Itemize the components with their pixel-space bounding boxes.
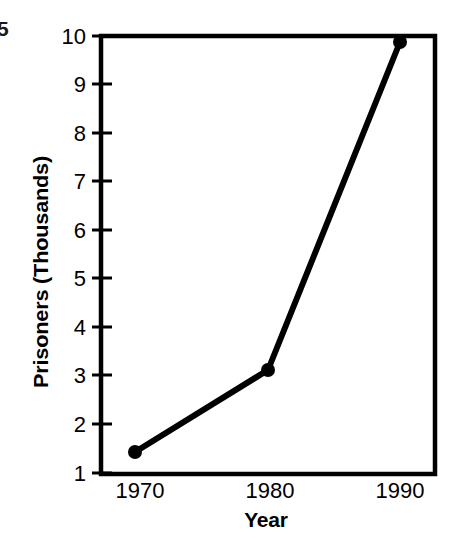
y-tick-label-7: 7 [74, 169, 86, 194]
y-tick-label-6: 6 [74, 218, 86, 243]
figure-container: 5 10 9 8 7 6 5 4 3 2 [0, 0, 457, 555]
y-axis-title: Prisoners (Thousands) [29, 156, 52, 388]
y-tick-label-4: 4 [74, 315, 86, 340]
x-axis-title: Year [244, 508, 288, 531]
x-tick-label-1970: 1970 [116, 478, 165, 503]
y-tick-label-2: 2 [74, 412, 86, 437]
y-tick-label-1: 1 [74, 461, 86, 486]
x-tick-label-1990: 1990 [376, 478, 425, 503]
data-point-1970 [128, 445, 142, 459]
series-line [135, 42, 400, 452]
plot-border [101, 36, 435, 474]
y-tick-label-3: 3 [74, 363, 86, 388]
y-axis-tick-labels: 10 9 8 7 6 5 4 3 2 1 [62, 24, 86, 486]
y-tick-label-10: 10 [62, 24, 86, 49]
plot-frame [101, 36, 435, 474]
y-tick-label-5: 5 [74, 266, 86, 291]
x-tick-label-1980: 1980 [246, 478, 295, 503]
data-point-1980 [261, 363, 275, 377]
line-chart: 10 9 8 7 6 5 4 3 2 1 1970 1980 1990 Pris… [0, 0, 457, 555]
data-series-prisoners [128, 35, 407, 459]
y-tick-label-9: 9 [74, 72, 86, 97]
data-point-1990 [393, 35, 407, 49]
y-tick-label-8: 8 [74, 121, 86, 146]
x-axis-tick-labels: 1970 1980 1990 [116, 478, 425, 503]
